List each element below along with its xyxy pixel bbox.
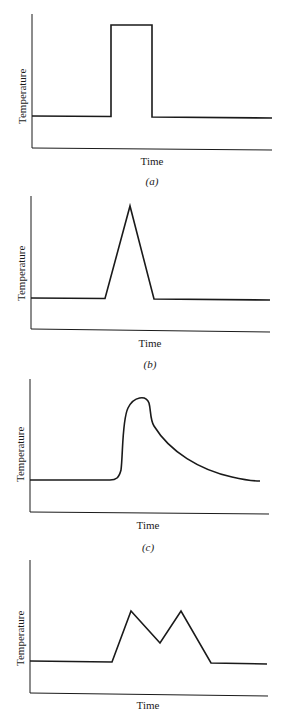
panel-a-caption: (a): [132, 175, 172, 187]
panel-b-curve: [31, 206, 270, 300]
panel-b-x-label: Time: [130, 337, 170, 349]
panel-d-curve: [30, 611, 267, 664]
panel-d-x-label: Time: [128, 699, 168, 711]
panel-d-y-label: Temperature: [14, 586, 26, 666]
panel-b-axes: [31, 196, 270, 332]
diagram-canvas: [0, 0, 281, 713]
panel-d: [30, 560, 268, 696]
panel-b: [31, 196, 270, 332]
panel-a-curve: [32, 25, 272, 118]
panel-a-x-label: Time: [132, 155, 172, 167]
panel-c-x-label: Time: [128, 519, 168, 531]
panel-b-caption: (b): [130, 358, 170, 370]
panel-d-axes: [30, 560, 268, 696]
panel-c-curve: [30, 398, 260, 481]
panel-c-axes: [30, 379, 269, 514]
panel-c: [30, 379, 269, 514]
panel-b-y-label: Temperature: [15, 221, 27, 301]
panel-a: [32, 14, 272, 150]
panel-a-y-label: Temperature: [16, 44, 28, 124]
panel-c-y-label: Temperature: [14, 402, 26, 482]
panel-c-caption: (c): [128, 541, 168, 553]
